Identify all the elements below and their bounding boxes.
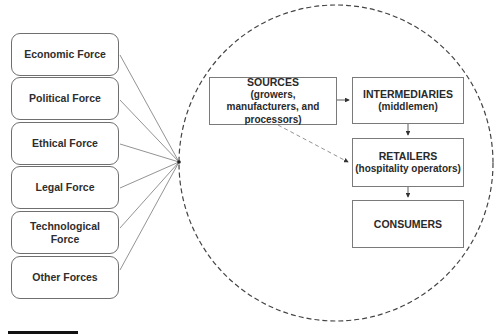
sources-title: SOURCES [247, 76, 299, 89]
force-label: Technological Force [30, 220, 100, 246]
sources-box: SOURCES (growers, manufacturers, and pro… [209, 77, 337, 125]
force-box-legal: Legal Force [11, 166, 119, 209]
convergence-point [177, 160, 181, 164]
dashed-arrow-sources-to-retailers [278, 125, 348, 162]
intermediaries-title: INTERMEDIARIES [363, 88, 453, 101]
force-box-technological: Technological Force [11, 211, 119, 254]
force-label: Ethical Force [32, 137, 98, 150]
force-box-other: Other Forces [11, 256, 119, 299]
force-label: Political Force [29, 92, 101, 105]
force-label: Economic Force [24, 48, 106, 61]
retailers-subtitle: (hospitality operators) [355, 163, 461, 176]
force-label: Other Forces [32, 271, 97, 284]
force-box-political: Political Force [11, 77, 119, 120]
consumers-box: CONSUMERS [352, 200, 464, 248]
force-box-ethical: Ethical Force [11, 122, 119, 165]
intermediaries-box: INTERMEDIARIES (middlemen) [352, 77, 464, 124]
retailers-title: RETAILERS [379, 150, 438, 163]
force-lines [120, 55, 179, 270]
retailers-box: RETAILERS (hospitality operators) [352, 138, 464, 187]
sources-subtitle: (growers, manufacturers, and processors) [210, 89, 336, 127]
force-label: Legal Force [36, 181, 95, 194]
force-box-economic: Economic Force [11, 33, 119, 76]
consumers-title: CONSUMERS [374, 218, 442, 231]
intermediaries-subtitle: (middlemen) [378, 101, 437, 114]
